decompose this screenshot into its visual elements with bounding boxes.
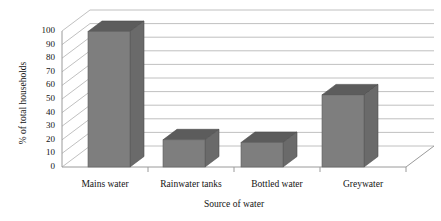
y-tick-label: 30 xyxy=(46,120,56,130)
bar-mains-water[interactable] xyxy=(88,21,144,167)
y-tick-label: 50 xyxy=(46,93,56,103)
gridline-riser xyxy=(62,132,90,153)
gridline-riser xyxy=(62,92,90,113)
category-label-rainwater-tanks: Rainwater tanks xyxy=(160,179,222,189)
y-tick-label: 60 xyxy=(46,79,56,89)
y-tick-label: 10 xyxy=(46,147,56,157)
bar-greywater[interactable] xyxy=(322,84,378,167)
y-tick-label: 100 xyxy=(42,25,56,35)
gridline-riser xyxy=(62,51,90,72)
x-axis-category-labels: Mains water Rainwater tanks Bottled wate… xyxy=(81,179,383,189)
bar-front-face xyxy=(88,32,130,168)
category-label-mains-water: Mains water xyxy=(81,179,129,189)
bar-front-face xyxy=(241,143,283,168)
x-axis-title: Source of water xyxy=(204,199,265,209)
bar-side-face xyxy=(364,84,378,167)
y-tick-label: 70 xyxy=(46,66,56,76)
gridline-riser xyxy=(62,24,90,45)
gridline-riser xyxy=(62,64,90,85)
y-tick-label: 40 xyxy=(46,107,56,117)
bar-front-face xyxy=(322,95,364,167)
floor-depth-edge xyxy=(406,146,434,167)
y-tick-label: 0 xyxy=(51,161,56,171)
gridline-riser xyxy=(62,105,90,126)
y-tick-label: 80 xyxy=(46,52,56,62)
gridline-riser xyxy=(62,37,90,58)
bar-chart-3d: % of total households 100 90 80 70 60 50… xyxy=(0,0,441,221)
gridline-riser xyxy=(62,10,90,31)
bar-front-face xyxy=(163,140,205,167)
x-axis-ticks xyxy=(148,167,406,172)
y-axis-tick-labels: 100 90 80 70 60 50 40 30 20 10 0 xyxy=(42,25,56,171)
gridline-riser xyxy=(62,78,90,99)
gridline-riser xyxy=(62,119,90,140)
y-axis-title: % of total households xyxy=(18,61,28,144)
bar-side-face xyxy=(130,21,144,167)
gridline-riser xyxy=(62,146,90,167)
chart-container: % of total households 100 90 80 70 60 50… xyxy=(0,0,441,221)
category-label-greywater: Greywater xyxy=(343,179,384,189)
bar-series xyxy=(88,21,378,167)
bar-bottled-water[interactable] xyxy=(241,132,297,167)
bar-rainwater-tanks[interactable] xyxy=(163,129,219,167)
category-label-bottled-water: Bottled water xyxy=(251,179,303,189)
y-tick-label: 20 xyxy=(46,134,56,144)
y-tick-label: 90 xyxy=(46,39,56,49)
